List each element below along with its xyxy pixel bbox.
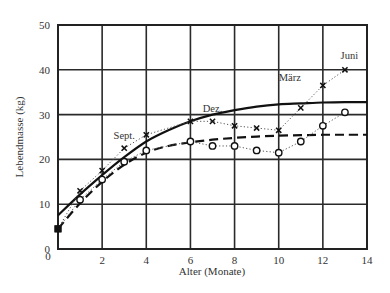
o-marker [320, 123, 326, 129]
y-axis-ticks: 01020304050 [39, 19, 51, 255]
y-tick-label: 40 [39, 64, 51, 76]
y-axis-label: Lebendmasse (kg) [13, 96, 26, 177]
o-marker [121, 158, 127, 164]
x-tick-label: 2 [99, 254, 105, 266]
start-point-marker [55, 225, 62, 232]
o-marker [143, 147, 149, 153]
o-marker [253, 147, 259, 153]
y-tick-label: 50 [39, 19, 51, 31]
y-tick-label: 20 [39, 153, 51, 165]
o-marker [342, 109, 348, 115]
observed-series [55, 67, 349, 232]
annotation-label: Dez. [203, 103, 223, 114]
o-marker [209, 143, 215, 149]
annotation-label: Juni [341, 50, 359, 61]
y-tick-label: 30 [39, 109, 51, 121]
x-tick-label: 10 [273, 254, 285, 266]
x-tick-label: 14 [362, 254, 374, 266]
annotation-label: März [279, 72, 301, 83]
x-marker [122, 146, 127, 151]
x-tick-label: 12 [317, 254, 328, 266]
x-tick-label: 0 [45, 250, 51, 262]
annotation-label: Sept. [114, 130, 135, 141]
o-marker [187, 138, 193, 144]
o-marker [231, 143, 237, 149]
x-axis-ticks: 02468101214 [45, 250, 373, 266]
plot-frame [58, 25, 367, 249]
x-marker [77, 188, 82, 193]
o-series-dotted-line [58, 112, 345, 228]
growth-chart: 01020304050 02468101214 Sept.Dez.MärzJun… [0, 0, 390, 293]
o-marker [298, 138, 304, 144]
o-marker [77, 197, 83, 203]
x-tick-label: 4 [144, 254, 150, 266]
x-axis-label: Alter (Monate) [179, 265, 246, 278]
plot-border [58, 25, 367, 249]
y-tick-label: 10 [39, 198, 51, 210]
o-marker [276, 149, 282, 155]
grid-lines [58, 25, 367, 249]
x-marker [298, 105, 303, 110]
o-marker [99, 176, 105, 182]
